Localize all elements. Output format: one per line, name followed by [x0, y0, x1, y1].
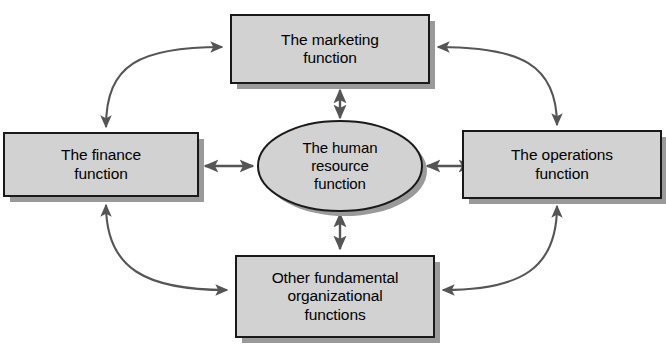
node-bodies: [4, 15, 661, 337]
connector-operations-other: [443, 206, 557, 290]
node-finance-box[interactable]: [4, 133, 198, 196]
node-marketing-box[interactable]: [231, 15, 429, 83]
diagram-graphics: [0, 0, 666, 357]
connector-finance-marketing: [106, 47, 222, 127]
node-center-ellipse[interactable]: [258, 121, 422, 211]
node-other-fundamental-box[interactable]: [236, 256, 434, 337]
connector-other-finance: [106, 205, 227, 290]
diagram-canvas: The marketing function The operations fu…: [0, 0, 666, 357]
node-operations-box[interactable]: [463, 131, 661, 198]
connector-marketing-operations: [438, 47, 557, 125]
